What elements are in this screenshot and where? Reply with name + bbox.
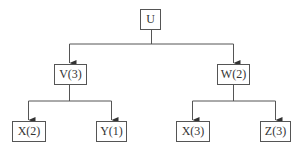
- node-z3: Z(3): [260, 121, 291, 142]
- node-label: X(2): [18, 124, 41, 139]
- node-v: V(3): [54, 64, 87, 85]
- node-label: Z(3): [265, 124, 286, 139]
- node-label: V(3): [59, 67, 82, 82]
- node-x3: X(3): [176, 121, 210, 142]
- node-label: X(3): [182, 124, 205, 139]
- node-label: W(2): [221, 67, 246, 82]
- node-x2: X(2): [12, 121, 46, 142]
- node-w: W(2): [217, 64, 250, 85]
- node-root-u: U: [140, 9, 161, 30]
- node-label: Y(1): [100, 124, 123, 139]
- node-label: U: [146, 12, 155, 27]
- node-y1: Y(1): [96, 121, 127, 142]
